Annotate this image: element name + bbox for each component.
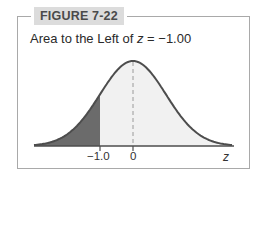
tick-label-neg-1: −1.0 (87, 150, 110, 162)
shaded-area-left-of-z (34, 94, 100, 146)
x-axis-label: z (223, 150, 229, 164)
tick-label-0: 0 (130, 150, 136, 162)
